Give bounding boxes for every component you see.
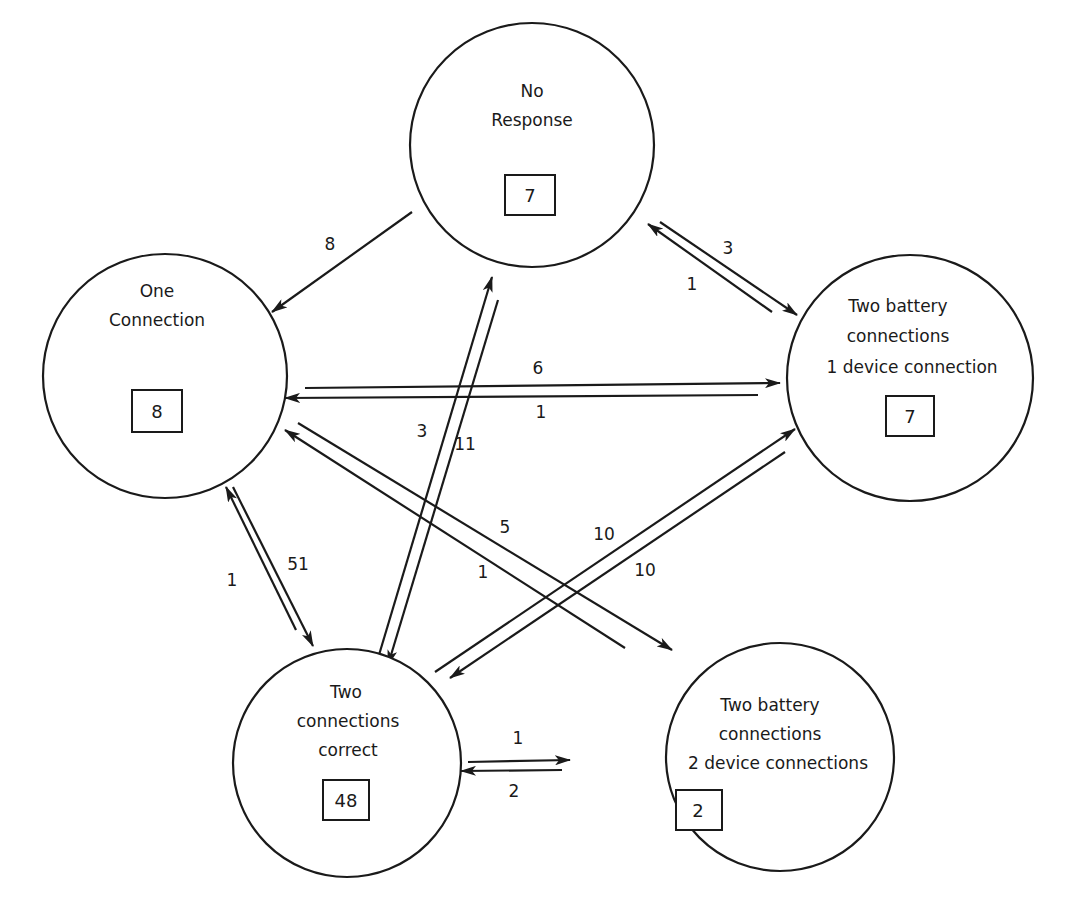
state-count: 48 <box>335 790 358 811</box>
state-label-line: No <box>520 81 543 101</box>
edge-label-8: 8 <box>325 234 336 254</box>
edge-noresponse-to-twobattery1 <box>660 222 797 315</box>
state-count: 2 <box>692 800 703 821</box>
edge-oneconnection-to-twobattery1 <box>305 383 780 388</box>
edge-label-11: 11 <box>454 434 476 454</box>
state-label-line: 2 device connections <box>688 753 868 773</box>
edge-twocorrect-to-oneconnection <box>226 487 296 630</box>
state-label-line: connections <box>847 326 950 346</box>
edge-twocorrect-to-twobattery1 <box>435 429 795 672</box>
state-label-line: connections <box>719 724 822 744</box>
edge-label-3b: 3 <box>417 421 428 441</box>
edge-label-2: 2 <box>509 781 520 801</box>
state-count: 8 <box>151 401 162 422</box>
edge-label-1: 1 <box>687 274 698 294</box>
edge-label-10b: 10 <box>634 560 656 580</box>
edge-label-1b: 1 <box>536 402 547 422</box>
state-label-line: Two battery <box>847 296 947 316</box>
state-label-line: One <box>140 281 175 301</box>
state-transition-diagram: 8 3 1 6 1 3 11 1 51 1 5 10 <box>0 0 1066 922</box>
edge-label-5: 5 <box>500 517 511 537</box>
state-label-line: connections <box>297 711 400 731</box>
edge-twocorrect-to-noresponse <box>376 277 492 665</box>
state-label-line: Response <box>491 110 573 130</box>
state-count: 7 <box>904 406 915 427</box>
node-two-battery-one-device: Two battery connections 1 device connect… <box>787 255 1033 501</box>
state-circle <box>787 255 1033 501</box>
node-one-connection: One Connection 8 <box>43 254 287 498</box>
node-two-battery-two-device: Two battery connections 2 device connect… <box>666 643 894 871</box>
edge-label-1c: 1 <box>227 570 238 590</box>
state-circle <box>410 23 654 267</box>
state-label-line: Connection <box>109 310 205 330</box>
edge-noresponse-to-oneconnection <box>272 212 412 312</box>
state-label-line: correct <box>318 740 378 760</box>
edge-twobattery1-to-noresponse <box>648 224 772 312</box>
state-count: 7 <box>524 185 535 206</box>
edge-twobattery1-to-oneconnection <box>285 395 758 398</box>
edge-label-1d: 1 <box>478 562 489 582</box>
edge-label-3: 3 <box>723 238 734 258</box>
edge-label-10: 10 <box>593 524 615 544</box>
edge-twobattery2-to-twocorrect <box>461 770 562 771</box>
node-two-connections-correct: Two connections correct 48 <box>233 649 461 877</box>
edge-label-6: 6 <box>533 358 544 378</box>
edge-twocorrect-to-twobattery2 <box>468 760 570 762</box>
state-label-line: Two battery <box>719 695 819 715</box>
state-label-line: 1 device connection <box>826 357 997 377</box>
node-no-response: No Response 7 <box>410 23 654 267</box>
edge-noresponse-to-twocorrect <box>388 300 498 665</box>
edge-label-1e: 1 <box>513 728 524 748</box>
edge-label-51: 51 <box>287 554 309 574</box>
edge-twobattery2-to-oneconnection <box>285 430 625 648</box>
edge-oneconnection-to-twobattery2 <box>298 423 672 650</box>
state-label-line: Two <box>329 682 362 702</box>
